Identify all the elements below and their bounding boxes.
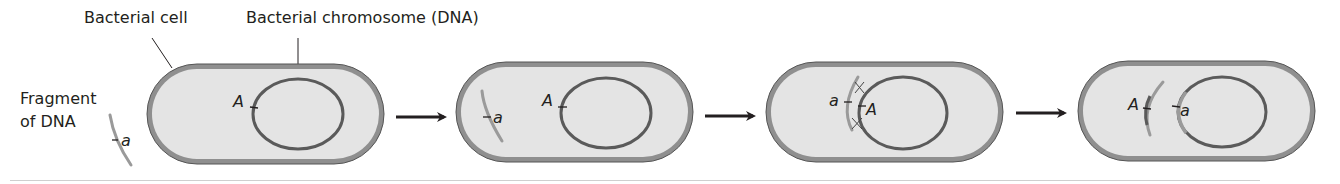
panel-1-allele-A: A (232, 92, 244, 111)
panel-3-cell: a A (766, 62, 1003, 162)
panel-4-allele-a: a (1180, 101, 1190, 120)
panel-2-cell: A a (456, 62, 693, 162)
panel-4-cell: A a (1078, 61, 1315, 161)
bacterial-cell-leader (152, 38, 172, 68)
panel-4-allele-A: A (1127, 95, 1139, 114)
fragment-allele-label: a (121, 131, 131, 150)
panel-2-allele-A: A (541, 91, 553, 110)
free-dna-fragment: a (110, 115, 131, 165)
panel-3-allele-A: A (865, 100, 877, 119)
panel-1-cell: A (147, 64, 384, 164)
panel-3-allele-a: a (829, 91, 839, 110)
bottom-rule (10, 180, 1260, 181)
transformation-diagram: a A A a a A (0, 0, 1340, 184)
panel-2-allele-a: a (493, 108, 503, 127)
